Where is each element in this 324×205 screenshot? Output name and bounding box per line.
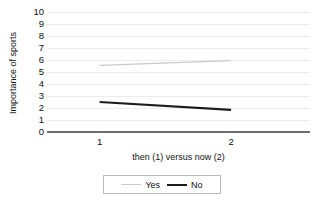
y-tick-label: 9 <box>24 19 44 29</box>
y-tick-label: 4 <box>24 79 44 89</box>
y-tick-label: 10 <box>24 7 44 17</box>
legend-item-no[interactable]: No <box>167 180 203 190</box>
plot-area <box>47 12 310 132</box>
y-tick-label: 5 <box>24 67 44 77</box>
legend-line-icon-no <box>167 184 187 186</box>
y-tick-label: 0 <box>24 127 44 137</box>
y-axis-ticks: 012345678910 <box>22 12 44 132</box>
legend-item-yes[interactable]: Yes <box>121 180 160 190</box>
series-line-no <box>100 102 232 110</box>
x-tick-label: 1 <box>88 136 112 147</box>
x-axis-line <box>47 131 310 133</box>
y-tick-label: 6 <box>24 55 44 65</box>
legend: Yes No <box>103 175 221 194</box>
chart-container: Importance of sports 012345678910 12 the… <box>0 0 324 205</box>
y-tick-label: 3 <box>24 91 44 101</box>
legend-label-no: No <box>191 180 203 190</box>
series-line-yes <box>100 61 232 66</box>
series-layer <box>47 12 310 132</box>
x-axis-label: then (1) versus now (2) <box>47 152 310 162</box>
x-tick-label: 2 <box>219 136 243 147</box>
y-axis-label: Importance of sports <box>8 12 22 134</box>
legend-line-icon-yes <box>121 184 141 185</box>
y-tick-label: 2 <box>24 103 44 113</box>
legend-label-yes: Yes <box>145 180 160 190</box>
y-tick-label: 1 <box>24 115 44 125</box>
y-tick-label: 7 <box>24 43 44 53</box>
y-tick-label: 8 <box>24 31 44 41</box>
